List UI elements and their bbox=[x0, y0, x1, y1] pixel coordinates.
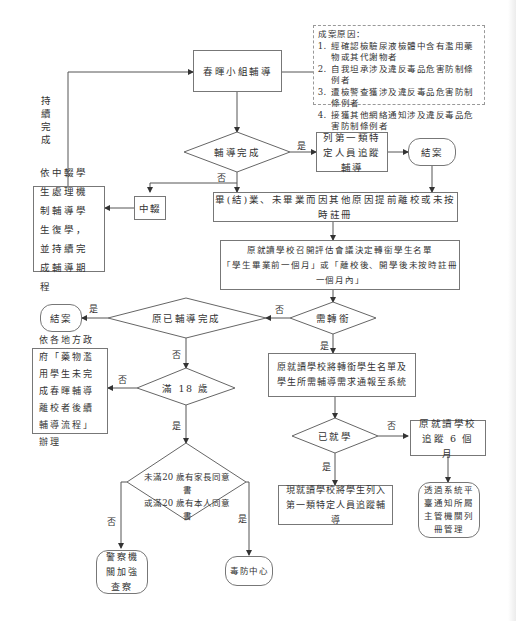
label-continue-done: 持續完成 bbox=[38, 96, 52, 148]
node-chunhui-counseling: 春暉小組輔導 bbox=[193, 50, 282, 92]
diamond-label-consent: 未滿20 歲有家長同意書 或滿20 歲有本人同意書 bbox=[142, 471, 232, 523]
node-local-gov-process: 依各地方政府「藥物濫用學生未完成春暉輔導離校者後續輔導流程」辦理 bbox=[32, 348, 108, 434]
node-label: 中輟 bbox=[139, 201, 162, 216]
node-end-2: 結案 bbox=[40, 304, 82, 332]
node-dropout-handling: 依中輟學生處理機制輔導學生復學，並持續完成輔導期程 bbox=[33, 186, 105, 272]
node-current-school-track: 現就讀學校將學生列入第一類特定人員追蹤輔導 bbox=[278, 485, 393, 525]
label-yes: 是 bbox=[238, 512, 247, 525]
label-no: 否 bbox=[118, 373, 127, 386]
node-graduate-leave: 畢(結)業、未畢業而因其他原因提前離校或未按時註冊 bbox=[213, 192, 458, 222]
node-notify-authority: 透過系統平臺通知所屬主管機關列冊管理 bbox=[418, 482, 480, 538]
node-police-inspection: 警察機關加強查察 bbox=[96, 550, 148, 594]
node-label: 透過系統平臺通知所屬主管機關列冊管理 bbox=[423, 484, 475, 536]
node-end-1: 結案 bbox=[408, 138, 456, 166]
node-label: 結案 bbox=[421, 145, 444, 160]
label-yes: 是 bbox=[297, 139, 306, 152]
label-yes: 是 bbox=[172, 419, 181, 432]
node-label: 警察機關加強查察 bbox=[103, 550, 141, 595]
case-reasons-note: 成案原因： 經確認檢驗尿液檢體中含有濫用藥物或其代謝物者 自我坦承涉及違反毒品危… bbox=[313, 25, 485, 105]
note-item: 自我坦承涉及違反毒品危害防制條例者 bbox=[330, 64, 480, 87]
node-label: 畢(結)業、未畢業而因其他原因提前離校或未按時註冊 bbox=[214, 192, 457, 222]
node-list-first-class: 列第一類特定人員追蹤輔導 bbox=[316, 132, 388, 172]
node-label: 依中輟學生處理機制輔導學生復學，並持續完成輔導期程 bbox=[40, 163, 98, 296]
note-item: 遭檢警查獲涉及違反毒品危害防制條例者 bbox=[330, 87, 480, 110]
node-dropout: 中輟 bbox=[134, 196, 166, 220]
label-no: 否 bbox=[172, 348, 181, 361]
diamond-label-prev-done: 原已輔導完成 bbox=[150, 312, 222, 325]
note-list: 經確認檢驗尿液檢體中含有濫用藥物或其代謝物者 自我坦承涉及違反毒品危害防制條例者… bbox=[318, 41, 480, 133]
node-label-line2: 「學生畢業前一個月」或「離校後、開學後未按時註冊一個月內」 bbox=[221, 258, 459, 288]
diamond-label-age18: 滿 18 歲 bbox=[155, 382, 217, 395]
node-label-line1: 原就讀學校召開評估會議決定轉銜學生名單 bbox=[247, 243, 433, 258]
label-yes: 是 bbox=[320, 339, 329, 352]
diamond-label-need-transfer: 需轉銜 bbox=[305, 312, 361, 325]
node-drug-prevention-center: 毒防中心 bbox=[225, 556, 273, 586]
label-no: 否 bbox=[217, 171, 226, 184]
node-label: 列第一類特定人員追蹤輔導 bbox=[323, 130, 381, 175]
node-label: 原就讀學校將轉銜學生名單及學生所需輔導需求通報至系統 bbox=[273, 360, 411, 390]
label-no: 否 bbox=[387, 419, 396, 432]
diamond-label-enrolled: 已就學 bbox=[310, 430, 360, 443]
node-label: 原就讀學校追蹤 6 個月 bbox=[419, 416, 477, 461]
node-label: 春暉小組輔導 bbox=[203, 64, 272, 79]
label-no: 否 bbox=[275, 303, 284, 316]
node-label: 結案 bbox=[50, 311, 73, 326]
node-label: 現就讀學校將學生列入第一類特定人員追蹤輔導 bbox=[283, 483, 388, 528]
label-no: 否 bbox=[107, 515, 116, 528]
consent-line1: 未滿20 歲有家長同意書 bbox=[142, 471, 232, 497]
diamond-label-fudao-done: 輔導完成 bbox=[205, 146, 269, 159]
node-report-system: 原就讀學校將轉銜學生名單及學生所需輔導需求通報至系統 bbox=[268, 353, 416, 397]
node-label: 毒防中心 bbox=[230, 564, 268, 579]
node-track-6-months: 原就讀學校追蹤 6 個月 bbox=[410, 420, 486, 456]
note-title: 成案原因： bbox=[318, 29, 480, 41]
label-yes: 是 bbox=[89, 302, 98, 315]
label-yes: 是 bbox=[322, 460, 331, 473]
note-item: 經確認檢驗尿液檢體中含有濫用藥物或其代謝物者 bbox=[330, 41, 480, 64]
node-label: 依各地方政府「藥物濫用學生未完成春暉輔導離校者後續輔導流程」辦理 bbox=[39, 332, 101, 451]
node-evaluation-meeting: 原就讀學校召開評估會議決定轉銜學生名單 「學生畢業前一個月」或「離校後、開學後未… bbox=[220, 240, 460, 290]
consent-line2: 或滿20 歲有本人同意書 bbox=[142, 497, 232, 523]
